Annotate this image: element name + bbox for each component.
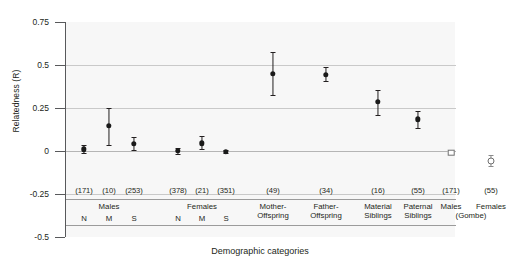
error-bar-cap-lower xyxy=(489,166,494,167)
sample-size-label: (171) xyxy=(431,186,471,195)
category-labels-layer: (171)(10)(253)(378)(21)(351)(49)(34)(16)… xyxy=(66,22,455,237)
category-group-label: Males xyxy=(79,202,139,212)
y-tick-label: -0.25 xyxy=(9,190,49,199)
category-sub-label: S xyxy=(119,214,149,223)
y-tick-mark xyxy=(55,108,65,109)
category-group-label: Females xyxy=(461,202,511,212)
category-group-label: Females xyxy=(172,202,232,212)
sample-size-label: (49) xyxy=(253,186,293,195)
y-axis-title: Relatedness (R) xyxy=(11,41,21,161)
sample-size-label: (34) xyxy=(306,186,346,195)
sample-size-label: (55) xyxy=(471,186,511,195)
sample-size-label: (253) xyxy=(114,186,154,195)
category-group-label: Mother- xyxy=(243,202,303,212)
x-axis-title: Demographic categories xyxy=(65,246,455,256)
sample-size-label: (16) xyxy=(358,186,398,195)
y-tick-label: 0.25 xyxy=(9,104,49,113)
category-group-label-line2: Offspring xyxy=(243,211,303,221)
y-tick-label: -0.5 xyxy=(9,233,49,242)
y-tick-mark xyxy=(55,237,65,238)
data-point[interactable] xyxy=(483,153,499,169)
y-tick-label: 0.5 xyxy=(9,61,49,70)
y-tick-mark xyxy=(55,65,65,66)
y-tick-mark xyxy=(55,151,65,152)
y-tick-mark xyxy=(55,22,65,23)
category-group-label-line2: Offspring xyxy=(296,211,356,221)
sample-size-label: (351) xyxy=(206,186,246,195)
y-tick-label: 0 xyxy=(9,147,49,156)
plot-area: (171)(10)(253)(378)(21)(351)(49)(34)(16)… xyxy=(65,22,455,237)
y-tick-mark xyxy=(55,194,65,195)
y-tick-label: 0.75 xyxy=(9,18,49,27)
category-group-label-line2: Siblings xyxy=(388,211,448,221)
category-sub-label: S xyxy=(211,214,241,223)
data-point-marker xyxy=(488,157,495,164)
category-group-label-line2: (Gombe) xyxy=(441,211,501,221)
category-group-label: Father- xyxy=(296,202,356,212)
